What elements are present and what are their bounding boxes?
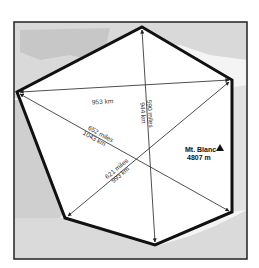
landmark-name: Mt. Blanc (185, 146, 216, 153)
landmark-elevation: 4807 m (187, 154, 211, 161)
map-background (14, 22, 247, 259)
label-north-south-km: 944 km (139, 102, 147, 124)
label-west-east-km: 953 km (92, 97, 114, 105)
france-hexagon-map: 953 km 590 miles 944 km 652 miles 1043 k… (0, 0, 259, 268)
